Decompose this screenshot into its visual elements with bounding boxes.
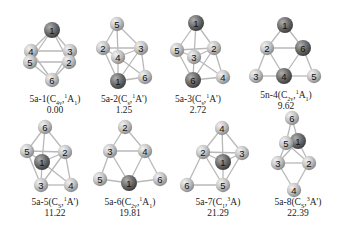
atom-label: 5 bbox=[27, 57, 32, 68]
relative-energy: 19.81 bbox=[85, 208, 175, 219]
relative-energy: 2.72 bbox=[153, 105, 243, 116]
atom-4: 4 bbox=[138, 144, 152, 158]
atom-2: 2 bbox=[196, 145, 210, 159]
structure-5a-5: 652134 bbox=[20, 120, 78, 192]
atom-2: 2 bbox=[302, 156, 316, 170]
structure-5a-2: 523461 bbox=[96, 17, 152, 89]
atom-6: 6 bbox=[45, 73, 59, 87]
atom-2: 2 bbox=[118, 120, 132, 134]
atom-1: 1 bbox=[44, 22, 60, 38]
atom-label: 4 bbox=[219, 123, 224, 134]
atom-1: 1 bbox=[215, 154, 231, 170]
close-paren: ) bbox=[144, 94, 147, 104]
structure-id: 5a-5(C bbox=[32, 197, 58, 207]
atom-3: 3 bbox=[235, 146, 249, 160]
structure-5a-1: 134256 bbox=[23, 22, 77, 87]
structure-5a-6: 234561 bbox=[93, 120, 167, 191]
atom-label: 3 bbox=[138, 43, 143, 54]
atom-label: 4 bbox=[220, 72, 225, 83]
atom-5: 5 bbox=[216, 178, 230, 192]
structure-caption: 5a-7(C1,3A)21.29 bbox=[173, 197, 263, 219]
atom-label: 4 bbox=[68, 180, 73, 191]
structure-caption: 5a-3(Cs,1A')2.72 bbox=[153, 94, 243, 116]
relative-energy: 21.29 bbox=[173, 208, 263, 219]
atom-5: 5 bbox=[279, 136, 293, 150]
atom-4: 4 bbox=[64, 178, 78, 192]
atom-4: 4 bbox=[287, 183, 301, 197]
atom-6: 6 bbox=[180, 178, 194, 192]
close-paren: ) bbox=[309, 90, 312, 100]
electronic-state: A bbox=[299, 90, 306, 100]
atom-label: 3 bbox=[239, 148, 244, 159]
atom-label: 5 bbox=[283, 138, 288, 149]
structure-5a-8: 615324 bbox=[271, 111, 316, 197]
atom-6: 6 bbox=[295, 40, 311, 56]
atom-4: 4 bbox=[215, 121, 229, 135]
close-paren: ) bbox=[237, 197, 240, 207]
atom-4: 4 bbox=[276, 68, 292, 84]
atom-label: 5 bbox=[24, 146, 29, 157]
atom-1: 1 bbox=[188, 15, 204, 31]
atom-label: 6 bbox=[184, 180, 189, 191]
atom-3: 3 bbox=[187, 50, 201, 64]
atom-label: 4 bbox=[281, 71, 286, 82]
atom-label: 6 bbox=[157, 174, 162, 185]
structure-id: 5a-3(C bbox=[175, 94, 201, 104]
structure-label: 5n-4(C2v,1A1) bbox=[241, 90, 331, 101]
atom-label: 2 bbox=[100, 43, 105, 54]
atom-4: 4 bbox=[216, 70, 230, 84]
structure-id: 5a-6(C bbox=[105, 197, 131, 207]
atom-label: 1 bbox=[49, 25, 54, 36]
relative-energy: 9.62 bbox=[241, 101, 331, 112]
atom-label: 2 bbox=[306, 158, 311, 169]
atom-label: 2 bbox=[264, 43, 269, 54]
atom-label: 3 bbox=[191, 52, 196, 63]
structure-5n-4: 126345 bbox=[249, 17, 321, 84]
atom-5: 5 bbox=[93, 172, 107, 186]
atom-3: 3 bbox=[271, 156, 285, 170]
atom-label: 3 bbox=[253, 71, 258, 82]
atom-label: 1 bbox=[295, 136, 300, 147]
atom-label: 1 bbox=[126, 178, 131, 189]
structure-id: 5a-2(C bbox=[101, 94, 127, 104]
atom-2: 2 bbox=[207, 41, 221, 55]
atom-5: 5 bbox=[307, 69, 321, 83]
structure-label: 5a-3(Cs,1A') bbox=[153, 94, 243, 105]
structure-caption: 5n-4(C2v,1A1)9.62 bbox=[241, 90, 331, 112]
atom-5: 5 bbox=[110, 17, 124, 31]
atom-label: 1 bbox=[193, 18, 198, 29]
atom-2: 2 bbox=[58, 145, 72, 159]
atom-label: 5 bbox=[311, 71, 316, 82]
atom-label: 6 bbox=[42, 122, 47, 133]
atom-label: 2 bbox=[211, 43, 216, 54]
atom-label: 2 bbox=[122, 122, 127, 133]
atom-1: 1 bbox=[34, 154, 50, 170]
atom-label: 6 bbox=[142, 72, 147, 83]
structure-caption: 5a-6(C2v,1A1)19.81 bbox=[85, 197, 175, 219]
structure-label: 5a-6(C2v,1A1) bbox=[85, 197, 175, 208]
atom-label: 6 bbox=[300, 43, 305, 54]
atom-6: 6 bbox=[138, 70, 152, 84]
atom-label: 6 bbox=[190, 75, 195, 86]
atom-2: 2 bbox=[260, 41, 274, 55]
atom-1: 1 bbox=[110, 73, 126, 89]
atom-label: 5 bbox=[174, 45, 179, 56]
atom-label: 6 bbox=[289, 113, 294, 124]
atom-2: 2 bbox=[62, 55, 76, 69]
atom-5: 5 bbox=[20, 144, 34, 158]
atom-1: 1 bbox=[277, 17, 293, 33]
atom-label: 1 bbox=[220, 157, 225, 168]
atom-5: 5 bbox=[23, 55, 37, 69]
atom-label: 1 bbox=[39, 157, 44, 168]
atom-3: 3 bbox=[103, 144, 117, 158]
atom-label: 3 bbox=[275, 158, 280, 169]
atom-label: 5 bbox=[114, 19, 119, 30]
atom-6: 6 bbox=[38, 120, 52, 134]
structure-label: 5a-8(CS,3A') bbox=[253, 197, 341, 208]
atom-2: 2 bbox=[96, 41, 110, 55]
atom-1: 1 bbox=[121, 175, 137, 191]
atom-3: 3 bbox=[134, 41, 148, 55]
close-paren: ) bbox=[152, 197, 155, 207]
atom-3: 3 bbox=[34, 178, 48, 192]
structure-id: 5n-4(C bbox=[260, 90, 287, 100]
